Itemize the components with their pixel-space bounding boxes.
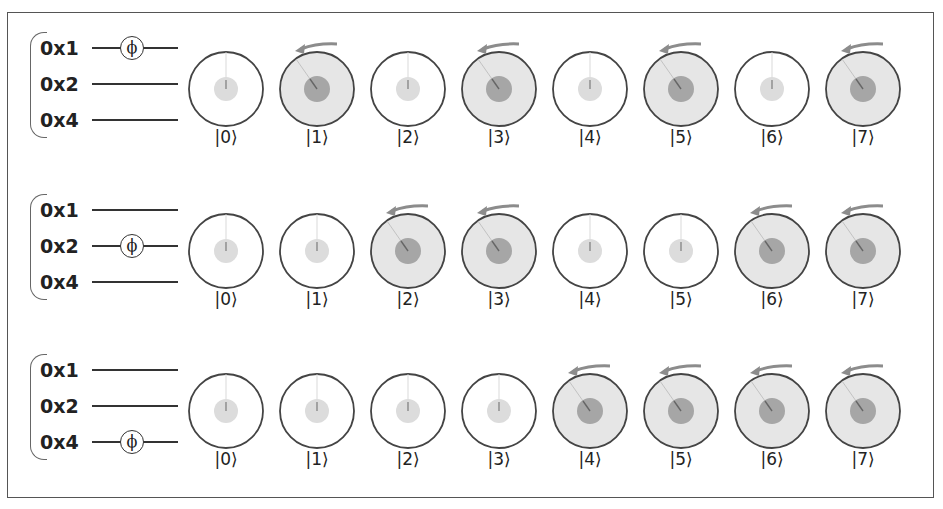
phased-state-circle [454,206,544,296]
basis-state-label: |0⟩ [196,449,256,469]
basis-state-label: |4⟩ [560,289,620,309]
phased-state-circle [272,44,362,134]
basis-state-label: |4⟩ [560,449,620,469]
qubit-label-0x4: 0x4 [40,271,79,293]
state-circle [636,206,726,296]
qubit-wire-0x4 [92,119,178,121]
qubit-label-0x2: 0x2 [40,73,79,95]
state-circle [181,366,271,456]
basis-state-label: |3⟩ [469,127,529,147]
state-circle [272,366,362,456]
state-circle [454,366,544,456]
basis-state-label: |7⟩ [833,289,893,309]
qubit-label-0x2: 0x2 [40,395,79,417]
basis-state-label: |2⟩ [378,127,438,147]
phase-gate-icon: ϕ [120,430,144,454]
state-circle [272,206,362,296]
phased-state-circle [454,44,544,134]
phased-state-circle [818,44,908,134]
basis-state-label: |6⟩ [742,289,802,309]
basis-state-label: |3⟩ [469,449,529,469]
qubit-label-0x4: 0x4 [40,109,79,131]
basis-state-label: |0⟩ [196,289,256,309]
qubit-label-0x1: 0x1 [40,359,79,381]
phased-state-circle [727,366,817,456]
basis-state-label: |0⟩ [196,127,256,147]
phase-row-0x2: 0x10x2ϕ0x4|0⟩|1⟩|2⟩|3⟩|4⟩|5⟩|6⟩|7⟩ [0,192,943,352]
basis-state-label: |1⟩ [287,449,347,469]
basis-state-label: |6⟩ [742,449,802,469]
basis-state-label: |2⟩ [378,289,438,309]
qubit-wire-0x2 [92,83,178,85]
basis-state-label: |7⟩ [833,127,893,147]
phased-state-circle [818,206,908,296]
phased-state-circle [545,366,635,456]
state-circle [363,366,453,456]
phased-state-circle [636,44,726,134]
qubit-label-0x1: 0x1 [40,37,79,59]
phased-state-circle [818,366,908,456]
qubit-wire-0x2 [92,405,178,407]
qubit-label-0x4: 0x4 [40,431,79,453]
basis-state-label: |1⟩ [287,289,347,309]
basis-state-label: |3⟩ [469,289,529,309]
basis-state-label: |4⟩ [560,127,620,147]
basis-state-label: |5⟩ [651,289,711,309]
state-circle [727,44,817,134]
qubit-wire-0x4 [92,281,178,283]
state-circle [181,206,271,296]
state-circle [363,44,453,134]
state-circle [545,44,635,134]
phased-state-circle [363,206,453,296]
qubit-wire-0x1 [92,209,178,211]
phased-state-circle [727,206,817,296]
basis-state-label: |7⟩ [833,449,893,469]
basis-state-label: |1⟩ [287,127,347,147]
basis-state-label: |2⟩ [378,449,438,469]
phase-row-0x1: 0x1ϕ0x20x4|0⟩|1⟩|2⟩|3⟩|4⟩|5⟩|6⟩|7⟩ [0,30,943,190]
basis-state-label: |5⟩ [651,449,711,469]
basis-state-label: |6⟩ [742,127,802,147]
qubit-label-0x2: 0x2 [40,235,79,257]
basis-state-label: |5⟩ [651,127,711,147]
phase-row-0x4: 0x10x20x4ϕ|0⟩|1⟩|2⟩|3⟩|4⟩|5⟩|6⟩|7⟩ [0,352,943,509]
phase-gate-icon: ϕ [120,234,144,258]
state-circle [181,44,271,134]
qubit-wire-0x1 [92,369,178,371]
phase-gate-icon: ϕ [120,36,144,60]
qubit-label-0x1: 0x1 [40,199,79,221]
phased-state-circle [636,366,726,456]
state-circle [545,206,635,296]
